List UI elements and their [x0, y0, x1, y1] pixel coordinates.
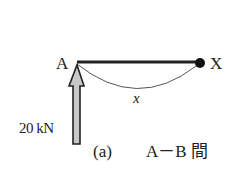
- end-point-x: [195, 58, 205, 68]
- point-a-label: A: [56, 55, 68, 72]
- force-arrow: [69, 65, 84, 144]
- caption-part: (a): [93, 143, 112, 160]
- distance-label: x: [133, 91, 140, 106]
- point-x-label: X: [210, 55, 222, 72]
- force-label: 20 kN: [19, 121, 54, 136]
- caption-text: A－B 間: [146, 143, 208, 160]
- beam-diagram: [0, 0, 247, 181]
- distance-arc: [77, 64, 196, 89]
